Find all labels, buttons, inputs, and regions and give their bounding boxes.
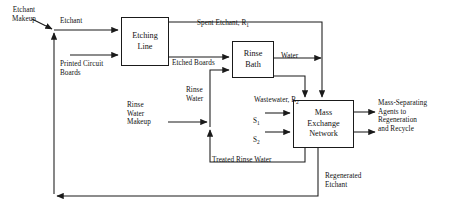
label-wastewater-text: Wastewater, R xyxy=(254,96,296,104)
label-stream-s2-subscript: 2 xyxy=(257,139,260,145)
label-wastewater-subscript: 2 xyxy=(296,99,299,105)
label-mass-separating-agents: Mass-Separating Agents to Regeneration a… xyxy=(378,99,448,133)
stream-rinse-water-feed xyxy=(210,70,229,127)
box-etching-line-label: Etching Line xyxy=(132,31,157,52)
label-etched-boards: Etched Boards xyxy=(172,59,215,68)
label-rinse-water-makeup: Rinse Water Makeup xyxy=(127,101,169,127)
box-rinse-bath[interactable]: Rinse Bath xyxy=(232,41,274,78)
box-mass-exchange-network[interactable]: Mass Exchange Network xyxy=(293,100,354,148)
label-wastewater: Wastewater, R2 xyxy=(254,87,299,107)
label-stream-s1-subscript: 1 xyxy=(257,120,260,126)
label-etchant-makeup: Etchant Makeup xyxy=(4,6,44,23)
box-mass-exchange-network-label: Mass Exchange Network xyxy=(307,108,339,140)
label-printed-circuit-boards: Printed Circuit Boards xyxy=(60,60,130,77)
label-rinse-water: Rinse Water xyxy=(186,86,210,103)
label-spent-etchant-subscript: 1 xyxy=(246,22,249,28)
process-flow-diagram: Etching Line Rinse Bath Mass Exchange Ne… xyxy=(0,0,449,214)
label-stream-s2: S2 xyxy=(253,127,260,147)
label-etchant: Etchant xyxy=(60,17,82,26)
box-rinse-bath-label: Rinse Bath xyxy=(244,49,263,70)
stream-regenerated-etchant xyxy=(57,148,318,196)
label-water: Water xyxy=(281,52,298,61)
label-stream-s1: S1 xyxy=(253,108,260,128)
label-spent-etchant: Spent Etchant, R1 xyxy=(197,10,249,30)
label-treated-rinse-water: Treated Rinse Water xyxy=(212,156,271,165)
box-etching-line[interactable]: Etching Line xyxy=(121,17,169,66)
label-regenerated-etchant: Regenerated Etchant xyxy=(325,172,385,189)
label-spent-etchant-text: Spent Etchant, R xyxy=(197,19,246,27)
